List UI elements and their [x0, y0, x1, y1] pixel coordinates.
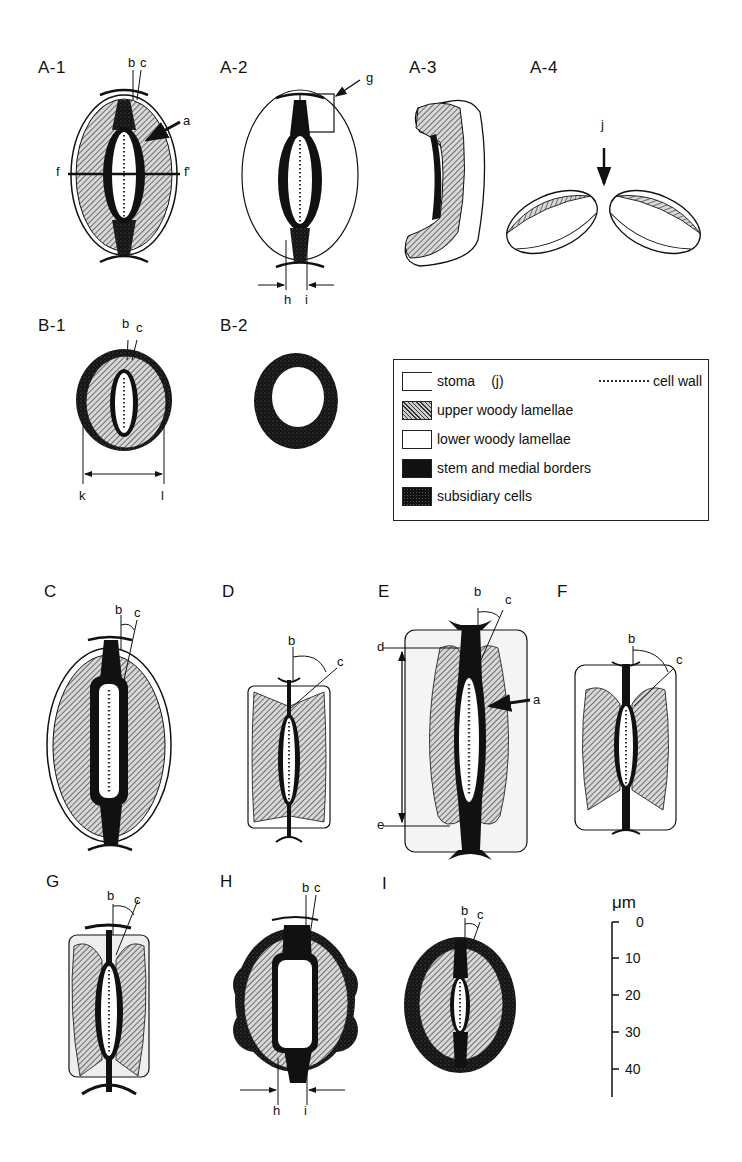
- stoma-d: [248, 647, 337, 842]
- anno-a1-b: b: [128, 55, 135, 70]
- legend-label-subsidiary: subsidiary cells: [437, 488, 532, 504]
- stoma-c: [47, 615, 171, 850]
- scale-tick-10: 10: [625, 950, 641, 966]
- anno-h-h: h: [273, 1103, 280, 1118]
- stoma-b2: [254, 353, 338, 449]
- panel-label-b2: B-2: [220, 316, 248, 336]
- anno-a2-g: g: [366, 70, 373, 85]
- anno-h-b: b: [302, 880, 309, 895]
- anno-c-c: c: [134, 605, 141, 620]
- anno-d-c: c: [337, 654, 344, 669]
- legend-item-stem-medial-borders: stem and medial borders: [402, 457, 591, 479]
- stoma-swatch: [402, 372, 432, 391]
- anno-a1-f: f: [56, 164, 60, 179]
- legend-item-subsidiary-cells: subsidiary cells: [402, 485, 532, 507]
- anno-i-c: c: [477, 907, 484, 922]
- legend-label-stoma: stoma: [437, 373, 475, 389]
- legend-item-upper-woody-lamellae: upper woody lamellae: [402, 399, 573, 421]
- legend-item-cell-wall: cell wall: [599, 373, 702, 389]
- panel-label-g: G: [46, 872, 60, 892]
- anno-a4-j: j: [601, 117, 604, 132]
- anno-e-b: b: [474, 584, 481, 599]
- panel-label-a1: A-1: [38, 58, 66, 78]
- anno-e-d: d: [377, 639, 384, 654]
- scale-tick-30: 30: [625, 1024, 641, 1040]
- stoma-a1: [68, 70, 180, 262]
- white-swatch: [402, 430, 432, 449]
- cell-wall-dotted-line-icon: [599, 380, 649, 382]
- anno-a1-c: c: [140, 55, 147, 70]
- anno-a2-i: i: [305, 292, 308, 307]
- anno-e-a: a: [533, 692, 540, 707]
- black-swatch: [402, 459, 432, 478]
- stoma-e: [383, 608, 530, 860]
- stippled-swatch: [402, 487, 432, 506]
- anno-g-c: c: [134, 892, 141, 907]
- anno-c-b: b: [115, 602, 122, 617]
- scale-unit: μm: [612, 893, 636, 913]
- panel-label-f: F: [557, 582, 568, 602]
- anno-b1-k: k: [79, 488, 86, 503]
- panel-label-b1: B-1: [38, 316, 66, 336]
- legend-label-lower: lower woody lamellae: [437, 431, 571, 447]
- anno-h-i: i: [304, 1103, 307, 1118]
- stoma-i: [404, 918, 516, 1073]
- anno-b1-b: b: [122, 316, 129, 331]
- anno-b1-c: c: [136, 320, 143, 335]
- anno-g-b: b: [107, 888, 114, 903]
- legend-label-upper: upper woody lamellae: [437, 402, 573, 418]
- hatched-swatch: [402, 401, 432, 420]
- anno-e-e: e: [377, 817, 384, 832]
- stoma-a2: [242, 80, 360, 290]
- panel-label-i: I: [382, 874, 387, 894]
- anno-f-c: c: [676, 652, 683, 667]
- panel-label-d: D: [222, 582, 235, 602]
- anno-d-b: b: [288, 633, 295, 648]
- stoma-a3: [405, 100, 484, 266]
- stoma-f: [575, 646, 676, 834]
- anno-e-c: c: [505, 592, 512, 607]
- anno-a2-h: h: [284, 292, 291, 307]
- anno-a1-a: a: [183, 113, 190, 128]
- legend-label-stem: stem and medial borders: [437, 460, 591, 476]
- anno-f-b: b: [628, 631, 635, 646]
- stoma-h: [233, 895, 358, 1105]
- scale-tick-0: 0: [636, 914, 644, 930]
- anno-h-c: c: [314, 880, 321, 895]
- anno-a1-f-prime: f': [184, 164, 190, 179]
- panel-label-e: E: [378, 582, 390, 602]
- scale-tick-40: 40: [625, 1061, 641, 1077]
- panel-label-h: H: [220, 872, 233, 892]
- stoma-a4: [497, 148, 710, 266]
- legend-item-lower-woody-lamellae: lower woody lamellae: [402, 428, 571, 450]
- panel-label-a4: A-4: [530, 58, 558, 78]
- stoma-b1: [76, 340, 172, 484]
- legend-label-stoma-extra: (j): [491, 373, 503, 389]
- panel-label-c: C: [44, 582, 57, 602]
- scale-tick-20: 20: [625, 987, 641, 1003]
- anno-b1-l: l: [161, 488, 164, 503]
- anno-i-b: b: [461, 903, 468, 918]
- panel-label-a2: A-2: [220, 58, 248, 78]
- legend-label-cell-wall: cell wall: [653, 373, 702, 389]
- scale-bar: [612, 922, 619, 1097]
- legend-item-stoma: stoma (j) cell wall: [402, 370, 702, 392]
- stoma-g: [69, 900, 149, 1094]
- panel-label-a3: A-3: [409, 58, 437, 78]
- legend: stoma (j) cell wall upper woody lamellae…: [393, 359, 709, 521]
